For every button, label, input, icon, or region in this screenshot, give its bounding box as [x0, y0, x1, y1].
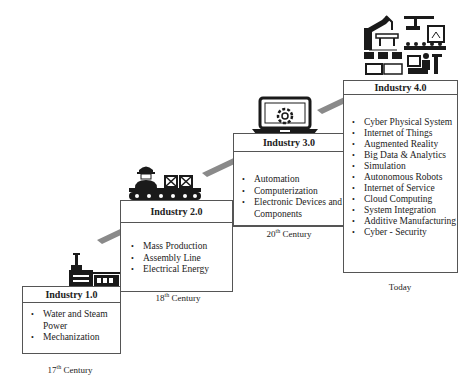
list-item: Automation	[240, 174, 344, 186]
era-label: 18th Century	[138, 292, 218, 303]
stage-title: Industry 4.0	[344, 81, 457, 95]
stage-industry-2: Industry 2.0 Mass Production Assembly Li…	[120, 200, 233, 292]
stage-title: Industry 3.0	[234, 134, 344, 152]
era-label: 20th Century	[249, 228, 329, 239]
list-item: Big Data & Analytics	[350, 150, 458, 161]
list-item: Mass Production	[129, 241, 231, 253]
stage-industry-1: Industry 1.0 Water and Steam Power Mecha…	[22, 286, 121, 354]
list-item: System Integration	[350, 205, 458, 216]
stage-industry-3: Industry 3.0 Automation Computerization …	[233, 133, 345, 226]
list-item: Computerization	[240, 186, 344, 198]
stage-items: Cyber Physical System Internet of Things…	[350, 117, 458, 238]
list-item: Electrical Energy	[129, 264, 231, 276]
era-label: Today	[360, 282, 440, 292]
stage-items: Water and Steam Power Mechanization	[29, 309, 119, 344]
list-item: Cloud Computing	[350, 194, 458, 205]
assembly-line-worker-icon	[127, 164, 203, 202]
list-item: Simulation	[350, 161, 458, 172]
list-item: Internet of Service	[350, 183, 458, 194]
factory-icon	[68, 253, 120, 287]
list-item: Additive Manufacturing	[350, 216, 458, 227]
stage-title: Industry 2.0	[121, 201, 232, 223]
list-item: Cyber Physical System	[350, 117, 458, 128]
list-item: Augmented Reality	[350, 139, 458, 150]
list-item: Cyber - Security	[350, 227, 458, 238]
stage-items: Mass Production Assembly Line Electrical…	[129, 241, 231, 276]
laptop-gear-icon	[250, 96, 320, 136]
stage-title: Industry 1.0	[23, 287, 120, 303]
list-item: Autonomous Robots	[350, 172, 458, 183]
smart-factory-icon	[362, 10, 450, 76]
list-item: Internet of Things	[350, 128, 458, 139]
stage-3-divider	[233, 226, 345, 227]
stage-items: Automation Computerization Electronic De…	[240, 174, 344, 220]
era-label: 17th Century	[30, 364, 110, 375]
list-item: Water and Steam Power	[29, 309, 119, 332]
list-item: Electronic Devices and Components	[240, 197, 344, 220]
stage-industry-4: Industry 4.0 Cyber Physical System Inter…	[343, 80, 458, 273]
list-item: Assembly Line	[129, 253, 231, 265]
list-item: Mechanization	[29, 332, 119, 344]
